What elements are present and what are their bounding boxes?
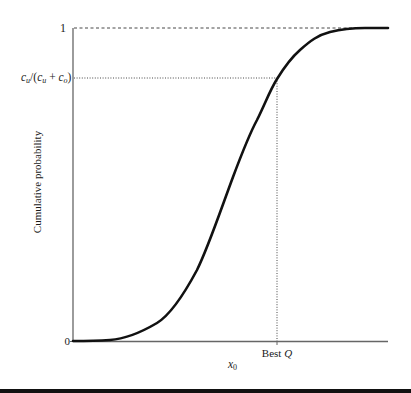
y-tick-label-zero: 0 — [65, 335, 71, 347]
y-axis-label: Cumulative probability — [31, 130, 43, 233]
x-axis-label: x0 — [227, 358, 237, 372]
cdf-chart: 1 0 cu/(cu + co) Cumulative probability … — [0, 0, 411, 393]
cdf-curve — [73, 28, 388, 341]
bottom-rule — [0, 389, 411, 393]
y-tick-label-critical-ratio: cu/(cu + co) — [21, 71, 72, 85]
y-tick-label-one: 1 — [60, 21, 66, 35]
x-tick-label-best-q: Best Q — [262, 347, 292, 359]
